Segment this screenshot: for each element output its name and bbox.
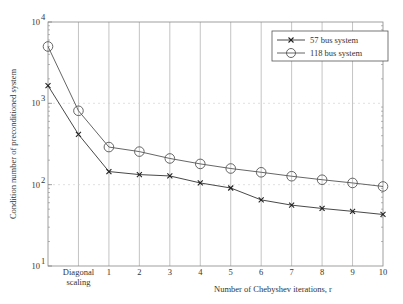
y-tick-exponent: 2	[41, 175, 45, 185]
y-tick-label: 10	[32, 17, 41, 27]
x-tick-label: Diagonal	[63, 267, 95, 277]
x-tick-label: 6	[259, 267, 263, 277]
legend: 57 bus system 118 bus system	[272, 31, 388, 61]
x-tick-label: 7	[290, 267, 294, 277]
y-axis-label: Condition number of preconditioned syste…	[8, 69, 18, 220]
legend-label: 118 bus system	[310, 48, 362, 58]
x-tick-label: 9	[350, 267, 354, 277]
legend-label: 57 bus system	[310, 35, 359, 45]
line-chart: 104103102101 Diagonalscaling12345678910 …	[0, 0, 403, 304]
data-series	[43, 42, 388, 217]
y-tick-exponent: 1	[41, 256, 45, 266]
x-tick-label: 3	[168, 267, 172, 277]
y-tick-exponent: 3	[41, 93, 45, 103]
x-tick-label: 10	[379, 267, 388, 277]
x-axis-label: Number of Chebyshev iterations, r	[214, 284, 332, 294]
x-tick-label: 4	[198, 267, 203, 277]
y-tick-exponent: 4	[41, 12, 46, 22]
x-tick-label: scaling	[66, 277, 91, 287]
series-118-bus-system	[43, 42, 388, 192]
y-tick-label: 10	[32, 98, 41, 108]
x-tick-label: 2	[137, 267, 141, 277]
y-tick-label: 10	[32, 261, 41, 271]
x-tick-label: 5	[229, 267, 233, 277]
x-tick-label: 8	[320, 267, 324, 277]
x-tick-label: 1	[107, 267, 111, 277]
y-tick-label: 10	[32, 180, 41, 190]
